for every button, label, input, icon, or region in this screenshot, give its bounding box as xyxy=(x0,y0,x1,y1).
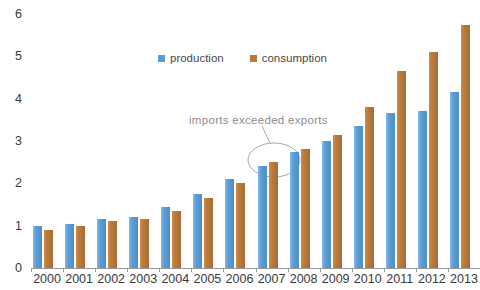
bar-production-2013 xyxy=(450,92,459,268)
x-axis-tick-label: 2001 xyxy=(65,272,93,286)
bar-group xyxy=(384,0,416,268)
bar-group xyxy=(416,0,448,268)
x-axis-tick-label: 2005 xyxy=(193,272,221,286)
bar-production-2009 xyxy=(322,141,331,268)
y-axis-tick-label: 3 xyxy=(15,134,22,148)
x-axis-tick-label: 2008 xyxy=(290,272,318,286)
bar-group xyxy=(320,0,352,268)
x-axis-tick-label: 2009 xyxy=(322,272,350,286)
bar-consumption-2013 xyxy=(461,25,470,268)
bar-consumption-2007 xyxy=(269,162,278,268)
bar-production-2011 xyxy=(386,113,395,268)
bar-groups xyxy=(31,0,480,268)
bar-production-2003 xyxy=(129,217,138,268)
bar-consumption-2009 xyxy=(333,135,342,268)
bar-production-2001 xyxy=(65,224,74,268)
x-axis-tick-label: 2006 xyxy=(226,272,254,286)
bar-group xyxy=(191,0,223,268)
y-axis-tick-label: 0 xyxy=(15,261,22,275)
y-axis-labels: 0123456 xyxy=(0,0,31,290)
y-axis-tick-label: 5 xyxy=(15,49,22,63)
x-axis-tick-label: 2003 xyxy=(129,272,157,286)
bar-group xyxy=(288,0,320,268)
bar-group xyxy=(256,0,288,268)
x-axis-tick-label: 2013 xyxy=(450,272,478,286)
x-axis-labels: 2000200120022003200420052006200720082009… xyxy=(31,272,480,290)
bar-consumption-2000 xyxy=(44,230,53,268)
bar-production-2004 xyxy=(161,207,170,268)
bar-chart: 0123456 productionconsumption imports ex… xyxy=(0,0,480,290)
x-axis-tick-label: 2007 xyxy=(258,272,286,286)
bar-consumption-2011 xyxy=(397,71,406,268)
bar-production-2012 xyxy=(418,111,427,268)
bar-production-2005 xyxy=(193,194,202,268)
bar-group xyxy=(127,0,159,268)
bar-consumption-2008 xyxy=(301,149,310,268)
bar-group xyxy=(352,0,384,268)
x-axis-tick-label: 2000 xyxy=(33,272,61,286)
x-axis-tick-label: 2010 xyxy=(354,272,382,286)
bar-production-2006 xyxy=(225,179,234,268)
x-axis-tick-label: 2002 xyxy=(97,272,125,286)
y-axis-tick-label: 6 xyxy=(15,7,22,21)
bar-group xyxy=(31,0,63,268)
bar-production-2008 xyxy=(290,152,299,268)
bar-production-2007 xyxy=(258,166,267,268)
bar-consumption-2012 xyxy=(429,52,438,268)
bar-consumption-2004 xyxy=(172,211,181,268)
y-axis-tick-label: 4 xyxy=(15,92,22,106)
bar-consumption-2006 xyxy=(236,183,245,268)
y-axis-tick-label: 2 xyxy=(15,176,22,190)
y-axis-tick-label: 1 xyxy=(15,219,22,233)
bar-consumption-2005 xyxy=(204,198,213,268)
bar-consumption-2002 xyxy=(108,221,117,268)
bar-consumption-2010 xyxy=(365,107,374,268)
bar-production-2010 xyxy=(354,126,363,268)
x-axis-tick-label: 2011 xyxy=(386,272,413,286)
bar-group xyxy=(448,0,480,268)
bar-group xyxy=(223,0,255,268)
bar-group xyxy=(95,0,127,268)
x-axis-tick-label: 2004 xyxy=(161,272,189,286)
bar-consumption-2001 xyxy=(76,226,85,268)
bar-group xyxy=(63,0,95,268)
bar-consumption-2003 xyxy=(140,219,149,268)
bar-production-2000 xyxy=(33,226,42,268)
bar-group xyxy=(159,0,191,268)
bar-production-2002 xyxy=(97,219,106,268)
x-axis-tick-label: 2012 xyxy=(418,272,446,286)
